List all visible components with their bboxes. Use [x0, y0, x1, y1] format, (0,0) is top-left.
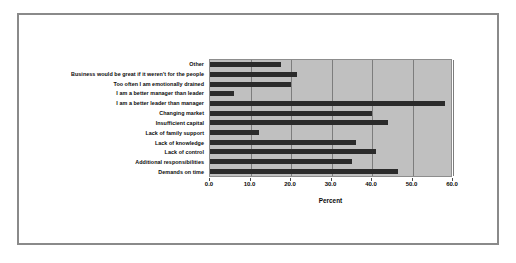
- category-label-row: Lack of knowledge: [19, 140, 207, 145]
- category-label: Lack of family support: [145, 130, 204, 136]
- category-axis-labels: Other Business would be great if it were…: [19, 59, 207, 177]
- category-label: I am a better leader than manager: [116, 100, 204, 106]
- category-label: Changing market: [159, 110, 204, 116]
- bar-row: [210, 149, 451, 154]
- bar-rows: [210, 60, 451, 176]
- category-label-row: Additional responsibilities: [19, 160, 207, 165]
- bar: [210, 140, 356, 145]
- category-label: Other: [189, 61, 204, 67]
- x-axis-ticks: 0.010.020.030.040.050.060.0: [209, 178, 452, 188]
- category-label-row: I am a better manager than leader: [19, 91, 207, 96]
- gridline: [453, 60, 454, 176]
- bar-row: [210, 62, 451, 67]
- category-label-row: Other: [19, 61, 207, 66]
- bar: [210, 101, 445, 106]
- category-label-row: Insufficient capital: [19, 120, 207, 125]
- x-tick-label: 60.0: [446, 181, 458, 187]
- bar-row: [210, 120, 451, 125]
- bar: [210, 72, 297, 77]
- category-label: Lack of control: [165, 149, 204, 155]
- category-label-row: Lack of family support: [19, 130, 207, 135]
- bar: [210, 111, 372, 116]
- plot-area: [209, 59, 452, 177]
- bar: [210, 149, 376, 154]
- category-label-row: Demands on time: [19, 170, 207, 175]
- category-label: Lack of knowledge: [155, 140, 204, 146]
- x-tick-label: 20.0: [284, 181, 296, 187]
- bar-row: [210, 111, 451, 116]
- x-tick-label: 10.0: [244, 181, 256, 187]
- x-tick-label: 40.0: [365, 181, 377, 187]
- bar-row: [210, 159, 451, 164]
- category-label-row: I am a better leader than manager: [19, 101, 207, 106]
- chart-title: [19, 4, 501, 10]
- category-label: Insufficient capital: [156, 120, 204, 126]
- bar: [210, 82, 291, 87]
- bar: [210, 169, 398, 174]
- bar-row: [210, 82, 451, 87]
- bar-row: [210, 91, 451, 96]
- x-axis-label: Percent: [209, 197, 452, 204]
- category-label-row: Changing market: [19, 111, 207, 116]
- bar: [210, 120, 388, 125]
- bar-row: [210, 72, 451, 77]
- x-tick-label: 0.0: [205, 181, 213, 187]
- bar-row: [210, 169, 451, 174]
- category-label-row: Lack of control: [19, 150, 207, 155]
- bar: [210, 130, 259, 135]
- x-tick-label: 30.0: [325, 181, 337, 187]
- category-label: Business would be great if it weren't fo…: [71, 71, 204, 77]
- category-label-row: Too often I am emotionally drained: [19, 81, 207, 86]
- bar-row: [210, 101, 451, 106]
- category-label-row: Business would be great if it weren't fo…: [19, 71, 207, 76]
- category-label: Demands on time: [158, 169, 204, 175]
- bar: [210, 159, 352, 164]
- bar-row: [210, 130, 451, 135]
- x-tick-label: 50.0: [406, 181, 418, 187]
- bar: [210, 91, 234, 96]
- bar: [210, 62, 281, 67]
- category-label: I am a better manager than leader: [116, 90, 204, 96]
- category-label: Too often I am emotionally drained: [113, 81, 204, 87]
- chart-figure: Other Business would be great if it were…: [17, 13, 499, 245]
- category-label: Additional responsibilities: [135, 159, 204, 165]
- bar-row: [210, 140, 451, 145]
